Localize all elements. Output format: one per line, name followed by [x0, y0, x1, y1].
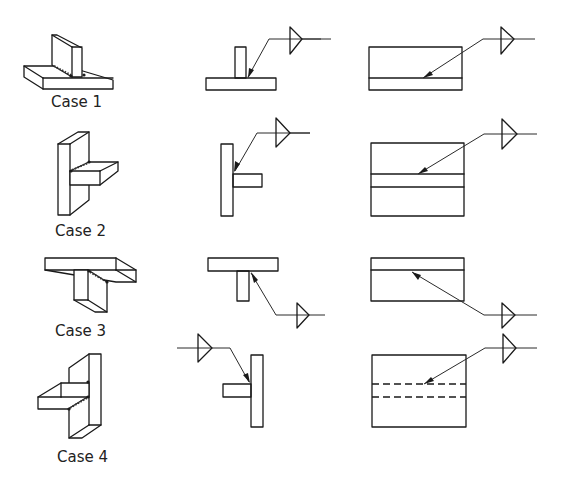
- case-3-label: Case 3: [55, 322, 106, 340]
- case-4-isometric: Case 4: [38, 354, 108, 466]
- case-3-side-view: [208, 258, 325, 328]
- case-3-isometric: Case 3: [45, 258, 136, 340]
- weld-symbol-diagram: Case 1 Case 2: [0, 0, 571, 492]
- case-4-front-view: [372, 334, 537, 427]
- case-3-front-view: [371, 258, 537, 328]
- case-2-label: Case 2: [55, 222, 106, 240]
- case-4-side-view: [177, 334, 263, 427]
- case-2-isometric: Case 2: [55, 132, 118, 240]
- case-2-side-view: [221, 118, 310, 216]
- case-1-label: Case 1: [51, 93, 102, 111]
- case-2-front-view: [371, 119, 537, 216]
- case-1-isometric: Case 1: [24, 35, 113, 111]
- case-1-front-view: [369, 27, 535, 90]
- case-1-side-view: [206, 27, 331, 90]
- case-4-label: Case 4: [57, 448, 108, 466]
